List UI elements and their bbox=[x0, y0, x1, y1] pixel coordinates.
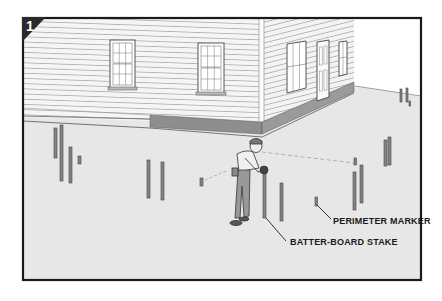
perimeter-marker bbox=[315, 197, 318, 206]
window-center bbox=[196, 43, 226, 95]
callout-batter-board-stake: BATTER-BOARD STAKE bbox=[290, 237, 398, 247]
batter-board-stake bbox=[263, 172, 266, 218]
window-side-2 bbox=[339, 41, 347, 76]
window-side-1 bbox=[287, 41, 306, 93]
callout-perimeter-marker: PERIMETER MARKER bbox=[333, 216, 431, 226]
corner-board bbox=[259, 18, 264, 130]
illustration-figure: 1 PERIMETER MARKER BATTER-BOARD STAKE bbox=[0, 0, 442, 301]
door bbox=[317, 40, 329, 101]
window-left bbox=[108, 40, 137, 90]
house-front-wall bbox=[23, 18, 262, 128]
step-number: 1 bbox=[26, 18, 34, 34]
